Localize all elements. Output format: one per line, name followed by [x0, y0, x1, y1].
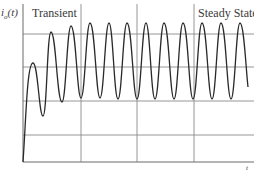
current-waveform [23, 23, 248, 162]
transient-annotation: Transient [32, 6, 77, 21]
y-axis-label: io(t) [1, 6, 18, 21]
chart-canvas [0, 0, 254, 177]
y-axis-label-tail: (t) [8, 6, 18, 18]
steady-state-annotation: Steady State [198, 6, 254, 21]
x-axis-label: t [246, 164, 248, 172]
